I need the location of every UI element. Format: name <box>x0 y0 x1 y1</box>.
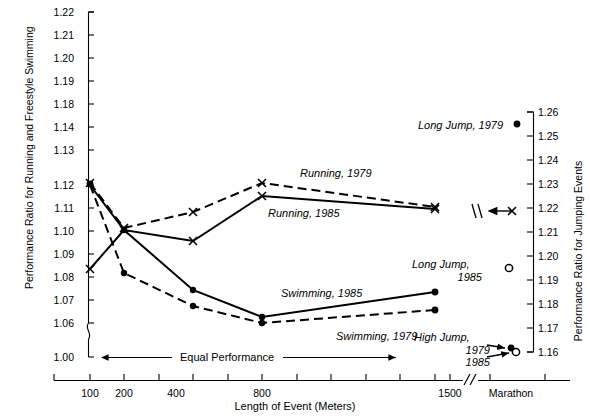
marker-x <box>508 207 516 215</box>
point-high-jump-1979 <box>508 345 515 352</box>
x-tick-800: 800 <box>232 388 292 399</box>
marker-x <box>189 208 197 216</box>
y-left-tick-1-00: 1.00 <box>28 352 74 363</box>
series-running-marathon-connector <box>472 204 512 218</box>
marker-x <box>189 237 197 245</box>
x-tick-1500: 1500 <box>420 388 480 399</box>
y-axis-left <box>87 12 94 357</box>
point-long-jump-1979 <box>514 121 521 128</box>
y-axis-right-title: Performance Ratio for Jumping Events <box>572 136 584 366</box>
y-left-tick-1-06: 1.06 <box>28 318 74 329</box>
y-axis-left-title: Performance Ratio for Running and Freest… <box>23 59 35 289</box>
x-axis-break-symbol <box>464 374 476 385</box>
marker-dot <box>259 314 265 320</box>
point-label-high-jump-1985: 1985 <box>414 356 494 369</box>
y-left-tick-1-07: 1.07 <box>28 295 74 306</box>
marker-dot <box>432 307 439 314</box>
series-label-running-1979: Running, 1979 <box>300 167 372 179</box>
y-left-tick-1-22: 1.22 <box>28 7 74 18</box>
point-high-jump-1985 <box>512 348 519 355</box>
point-label-high-jump-1979: 1979 <box>414 344 494 357</box>
point-label-long-jump-1985: Long Jump, 1985 <box>412 258 500 283</box>
marker-dot <box>190 287 196 293</box>
marker-x <box>86 179 94 187</box>
series-label-running-1985: Running, 1985 <box>268 207 340 219</box>
x-tick-200: 200 <box>94 388 154 399</box>
y-axis-right-ticks <box>527 112 534 352</box>
marker-dot <box>121 227 127 233</box>
series-running-1985 <box>90 196 435 269</box>
point-label-long-jump-1985-line1: Long Jump, <box>412 258 500 271</box>
equal-performance-label: Equal Performance <box>176 351 278 363</box>
marker-x <box>258 192 266 200</box>
x-tick-400: 400 <box>146 388 206 399</box>
series-swimming-1979 <box>90 185 435 323</box>
marker-dot <box>259 320 265 326</box>
marker-dot <box>87 181 94 188</box>
performance-ratio-chart: 1.22 1.21 1.20 1.19 1.18 1.14 1.13 1.12 … <box>0 0 590 419</box>
x-axis-ticks <box>54 374 545 381</box>
series-label-swimming-1979: Swimming, 1979 <box>336 330 417 342</box>
y-axis-right <box>527 112 534 352</box>
y-axis-left-ticks <box>89 12 95 323</box>
markers-swimming <box>87 181 439 327</box>
point-label-high-jump: High Jump, 1979 1985 <box>414 331 494 369</box>
series-running-1979 <box>90 183 435 228</box>
marker-dot <box>190 303 196 309</box>
point-label-long-jump-1979: Long Jump, 1979 <box>418 119 503 131</box>
marker-dot <box>432 289 439 296</box>
x-axis-title: Length of Event (Meters) <box>0 400 590 412</box>
point-label-high-jump-line1: High Jump, <box>414 331 494 344</box>
marker-x <box>86 265 94 273</box>
marker-x <box>431 203 439 211</box>
marker-x <box>120 226 128 234</box>
y-right-tick-1-26: 1.26 <box>538 107 584 118</box>
point-long-jump-1985 <box>505 264 512 271</box>
series-label-swimming-1985: Swimming, 1985 <box>281 287 362 299</box>
marker-dot <box>121 270 127 276</box>
marker-x <box>431 205 439 213</box>
series-swimming-1985 <box>90 185 435 317</box>
marker-x <box>120 224 128 232</box>
marker-x <box>258 179 266 187</box>
point-label-long-jump-1985-line2: 1985 <box>412 271 500 284</box>
x-tick-marathon: Marathon <box>481 388 541 399</box>
